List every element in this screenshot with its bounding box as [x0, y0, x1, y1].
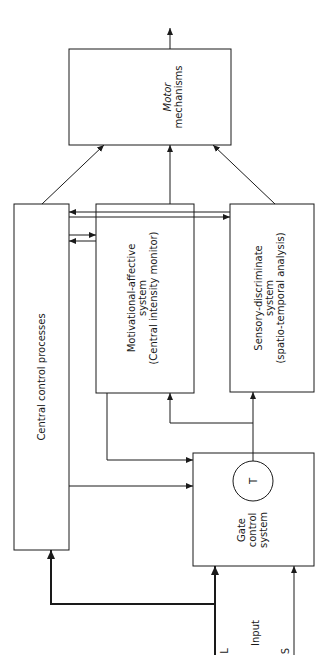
motivational-to-gate-arrow	[107, 393, 193, 460]
t-cell-label: T	[248, 477, 259, 485]
motivational-label-1: Motivational-affective	[126, 244, 137, 353]
gate-label-2: control	[247, 513, 258, 548]
central-to-motor-arrow	[42, 145, 104, 204]
motor-label-2: mechanisms	[173, 65, 184, 128]
t-to-motivational-arrow	[170, 393, 253, 423]
central-control-label: Central control processes	[36, 313, 47, 440]
input-s-label: S	[280, 648, 291, 654]
motivational-label-2: system	[137, 280, 148, 316]
gate-control-box	[193, 453, 314, 566]
input-label: Input	[250, 620, 261, 646]
sensory-to-motor-arrow	[213, 145, 275, 204]
sensory-label-2: system	[264, 280, 275, 316]
gate-label-3: system	[258, 512, 269, 548]
input-l-label: L	[219, 648, 230, 654]
sensory-label-1: Sensory-discriminate	[253, 245, 264, 350]
gate-control-diagram: Motor mechanisms Central control process…	[0, 0, 324, 670]
gate-label-1: Gate	[236, 518, 247, 542]
input-l-to-central-arrow	[51, 550, 215, 604]
motor-label-1: Motor	[162, 82, 173, 112]
motivational-label-3: (Central intensity monitor)	[148, 231, 159, 364]
motor-mechanisms-box	[69, 49, 231, 145]
sensory-label-3: (spatio-temporal analysis)	[275, 232, 286, 363]
